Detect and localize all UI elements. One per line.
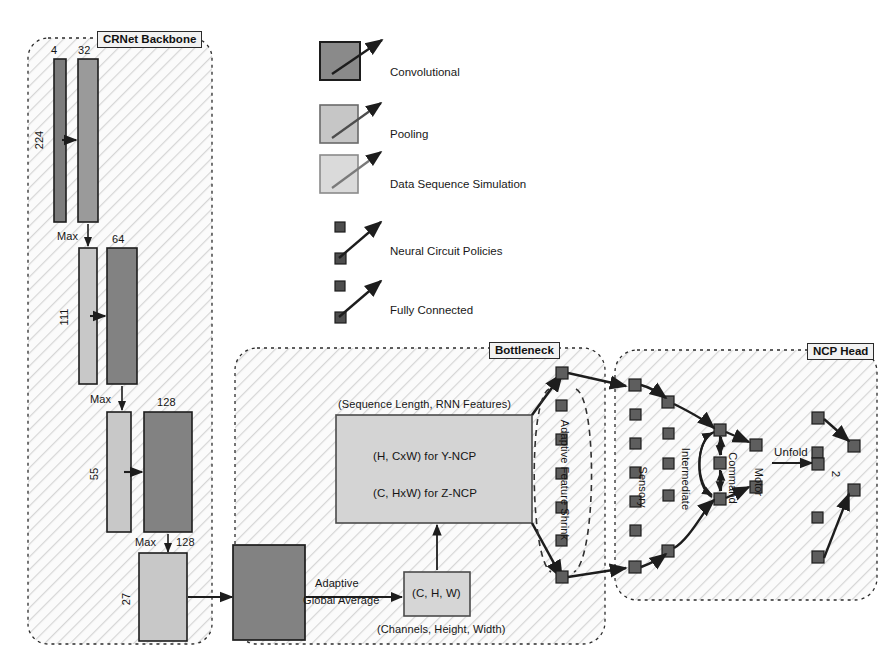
group-title-backbone: CRNet Backbone	[97, 31, 202, 48]
sensory-node	[630, 409, 641, 420]
motor-node	[750, 439, 762, 451]
backbone-spatial-label-111: 111	[58, 308, 70, 325]
unfold-node	[812, 447, 823, 458]
shrink-node	[556, 400, 567, 411]
backbone-spatial-label-55: 55	[88, 468, 100, 480]
command-node	[714, 493, 726, 505]
ncp-layer-label-command: Command	[727, 452, 739, 503]
legend-label-pooling: Pooling	[390, 128, 428, 140]
command-node	[714, 457, 726, 469]
sensory-node	[629, 561, 641, 573]
backbone-block-conv-128	[144, 412, 192, 532]
backbone-block-conv-64	[107, 248, 137, 384]
legend-swatch-convolutional	[320, 42, 360, 80]
backbone-spatial-label-224: 224	[33, 131, 45, 150]
intermediate-node	[663, 428, 674, 439]
backbone-channel-label-64: 64	[112, 233, 124, 245]
sensory-node	[630, 438, 641, 449]
backbone-pool-op-max-2: Max	[90, 393, 111, 405]
group-title-bottleneck: Bottleneck	[489, 342, 560, 359]
sensory-node	[630, 525, 641, 536]
sequence-box-caption: (Sequence Length, RNN Features)	[338, 398, 511, 410]
backbone-channel-label-32: 32	[78, 44, 90, 56]
backbone-channel-label-128b: 128	[176, 536, 195, 548]
sequence-box-line2: (C, HxW) for Z-NCP	[373, 487, 477, 499]
group-title-ncphead: NCP Head	[807, 343, 874, 360]
sensory-node	[629, 379, 641, 391]
shrink-node	[556, 367, 568, 379]
adaptive-global-average-line1: Adaptive	[315, 577, 359, 589]
bottleneck-conv-block	[233, 545, 305, 640]
backbone-spatial-label-27: 27	[120, 593, 132, 605]
backbone-channel-label-128a: 128	[157, 396, 176, 408]
adaptive-global-average-line2: Global Average	[303, 594, 379, 606]
backbone-block-conv-32	[78, 59, 98, 222]
legend-label-convolutional: Convolutional	[390, 66, 460, 78]
unfold-node	[812, 551, 824, 563]
diagram-svg	[0, 0, 890, 669]
backbone-pool-op-max-1: Max	[57, 230, 78, 242]
intermediate-node	[663, 490, 674, 501]
unfold-node	[812, 512, 823, 523]
sequence-box-line1: (H, CxW) for Y-NCP	[373, 450, 476, 462]
adaptive-feature-shrink-label: Adaptive Feature Shrink	[559, 420, 571, 540]
legend-label-data-sequence-simulation: Data Sequence Simulation	[390, 178, 526, 190]
command-node	[714, 424, 726, 436]
ncp-layer-label-motor: Motor	[753, 468, 765, 497]
shrink-node	[556, 571, 568, 583]
output-node	[848, 440, 860, 452]
legend-label-fully-connected: Fully Connected	[390, 304, 473, 316]
legend-label-neural-circuit-policies: Neural Circuit Policies	[390, 245, 502, 257]
legend-swatch-fully-connected-a	[335, 281, 345, 291]
backbone-block-pool-27	[139, 553, 187, 641]
backbone-pool-op-max-3: Max	[135, 536, 156, 548]
chw-box-label: (C, H, W)	[412, 587, 461, 599]
unfold-node	[812, 458, 824, 470]
output-count-label: 2	[830, 471, 842, 478]
legend-swatch-neural-circuit-policies-a	[335, 222, 345, 232]
unfold-node	[812, 412, 824, 424]
diagram-canvas: CRNet Backbone Bottleneck NCP Head Convo…	[0, 0, 890, 669]
output-node	[848, 484, 860, 496]
intermediate-node	[663, 458, 674, 469]
ncp-layer-label-sensory: Sensory	[637, 466, 649, 507]
unfold-label: Unfold	[774, 446, 808, 458]
chw-box-caption: (Channels, Height, Width)	[377, 623, 505, 635]
ncp-layer-label-intermediate: Intermediate	[680, 448, 692, 510]
backbone-channel-label-4: 4	[51, 44, 57, 56]
bottleneck-sequence-box	[336, 415, 532, 523]
